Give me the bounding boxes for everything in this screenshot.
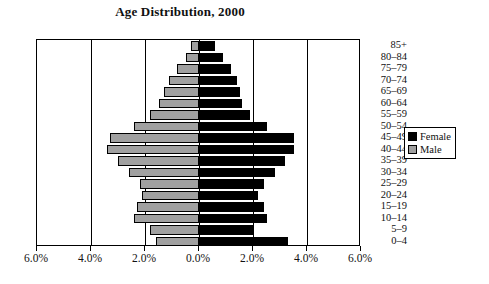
chart-title: Age Distribution, 2000 xyxy=(0,4,360,20)
bar-row xyxy=(37,63,359,75)
x-axis-tick-label: 2.0% xyxy=(224,252,280,264)
bar-row xyxy=(37,144,359,156)
bar-male xyxy=(186,53,200,63)
bar-row xyxy=(37,190,359,202)
age-group-label: 45–49 xyxy=(363,131,407,142)
age-group-label: 20–24 xyxy=(363,189,407,200)
bar-male xyxy=(164,87,199,97)
bar-row xyxy=(37,86,359,98)
bar-male xyxy=(134,214,199,224)
plot-area xyxy=(36,39,360,246)
bar-row xyxy=(37,213,359,225)
age-group-label: 30–34 xyxy=(363,166,407,177)
bar-male xyxy=(118,156,199,166)
x-axis-tick-label: 6.0% xyxy=(8,252,64,264)
bar-row xyxy=(37,155,359,167)
bar-row xyxy=(37,75,359,87)
bar-male xyxy=(142,191,199,201)
bar-female xyxy=(199,41,215,51)
x-axis-tick-label: 4.0% xyxy=(278,252,334,264)
legend-item: Female xyxy=(408,130,451,143)
bar-row xyxy=(37,201,359,213)
bar-female xyxy=(199,191,258,201)
x-axis-tick xyxy=(360,246,361,251)
bar-male xyxy=(191,41,199,51)
bar-female xyxy=(199,76,237,86)
bar-female xyxy=(199,133,294,143)
bar-male xyxy=(137,202,199,212)
bar-female xyxy=(199,110,250,120)
bar-female xyxy=(199,156,285,166)
bar-male xyxy=(107,145,199,155)
bar-male xyxy=(169,76,199,86)
bar-female xyxy=(199,237,288,247)
bar-male xyxy=(134,122,199,132)
legend-item: Male xyxy=(408,143,451,156)
bar-row xyxy=(37,109,359,121)
x-axis-tick xyxy=(90,246,91,251)
x-axis-tick xyxy=(144,246,145,251)
bar-row xyxy=(37,121,359,133)
bar-female xyxy=(199,122,267,132)
bar-male xyxy=(129,168,199,178)
age-group-label: 70–74 xyxy=(363,74,407,85)
bar-female xyxy=(199,214,267,224)
bar-female xyxy=(199,179,264,189)
bar-female xyxy=(199,202,264,212)
x-axis-tick-label: 0.0% xyxy=(170,252,226,264)
bar-female xyxy=(199,64,231,74)
bar-row xyxy=(37,167,359,179)
bar-row xyxy=(37,98,359,110)
bar-male xyxy=(177,64,199,74)
age-group-label: 5–9 xyxy=(363,223,407,234)
bar-female xyxy=(199,53,223,63)
bars-layer xyxy=(37,40,359,245)
bar-male xyxy=(140,179,199,189)
bar-female xyxy=(199,168,275,178)
bar-female xyxy=(199,225,253,235)
age-group-label: 35–39 xyxy=(363,154,407,165)
bar-row xyxy=(37,40,359,52)
age-group-label: 25–29 xyxy=(363,177,407,188)
age-group-label: 75–79 xyxy=(363,62,407,73)
age-group-label: 50–54 xyxy=(363,120,407,131)
x-axis-tick xyxy=(306,246,307,251)
legend-swatch-female-icon xyxy=(408,132,417,141)
bar-row xyxy=(37,132,359,144)
bar-male xyxy=(150,225,199,235)
bar-row xyxy=(37,52,359,64)
legend-label: Male xyxy=(420,144,442,155)
x-axis-tick xyxy=(198,246,199,251)
bar-male xyxy=(150,110,199,120)
bar-female xyxy=(199,145,294,155)
bar-male xyxy=(110,133,199,143)
age-group-label: 65–69 xyxy=(363,85,407,96)
age-group-label: 15–19 xyxy=(363,200,407,211)
x-axis-tick-label: 4.0% xyxy=(62,252,118,264)
bar-row xyxy=(37,178,359,190)
age-group-label: 60–64 xyxy=(363,97,407,108)
age-group-label: 0–4 xyxy=(363,235,407,246)
bar-female xyxy=(199,99,242,109)
age-group-label: 55–59 xyxy=(363,108,407,119)
x-axis-tick xyxy=(36,246,37,251)
age-group-label: 40–44 xyxy=(363,143,407,154)
age-group-label: 80–84 xyxy=(363,51,407,62)
age-group-label: 85+ xyxy=(363,39,407,50)
bar-female xyxy=(199,87,240,97)
bar-male xyxy=(156,237,199,247)
chart-legend: FemaleMale xyxy=(404,127,456,159)
x-axis-tick xyxy=(252,246,253,251)
x-axis-tick-label: 6.0% xyxy=(332,252,388,264)
bar-row xyxy=(37,224,359,236)
x-axis-tick-label: 2.0% xyxy=(116,252,172,264)
age-group-label: 10–14 xyxy=(363,212,407,223)
bar-male xyxy=(159,99,200,109)
legend-swatch-male-icon xyxy=(408,145,417,154)
population-pyramid-chart: Age Distribution, 2000 6.0%4.0%2.0%0.0%2… xyxy=(0,0,489,284)
legend-label: Female xyxy=(420,131,451,142)
